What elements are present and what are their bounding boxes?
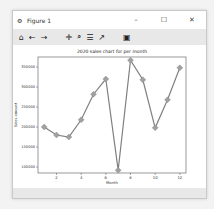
figure-icon: ⚙	[17, 17, 25, 24]
data-point-marker	[128, 57, 134, 63]
data-point-marker	[140, 77, 146, 83]
maximize-button[interactable]: ☐	[150, 16, 178, 24]
data-point-marker	[54, 132, 60, 138]
x-axis-label: Month	[106, 180, 118, 185]
data-point-marker	[165, 97, 171, 103]
back-icon[interactable]: ←	[29, 33, 36, 42]
window-title: Figure 1	[27, 17, 51, 24]
forward-icon[interactable]: →	[41, 33, 48, 42]
y-tick-label: 350000	[21, 65, 35, 69]
data-line	[44, 60, 180, 170]
y-tick-label: 100000	[21, 165, 35, 169]
data-point-marker	[115, 167, 121, 173]
plot-area	[38, 57, 186, 173]
y-tick-label: 150000	[21, 145, 35, 149]
y-axis-label: Sales amount	[14, 102, 18, 127]
close-button[interactable]: ✕	[178, 16, 206, 24]
home-icon[interactable]: ⌂	[19, 33, 24, 42]
title-bar: ⚙ Figure 1 – ☐ ✕	[13, 11, 206, 29]
x-tick-label: 8	[129, 175, 132, 180]
data-point-marker	[177, 65, 183, 71]
figure-canvas[interactable]: 2020 sales chart for per month1000001500…	[13, 45, 206, 185]
x-tick-label: 2	[55, 175, 58, 180]
x-tick-label: 10	[153, 175, 158, 180]
save-icon[interactable]: ▣	[123, 33, 131, 42]
y-tick-label: 250000	[21, 105, 35, 109]
navigation-toolbar: ⌂ ← → ✛ ⌕ ☰ ↗ ▣	[13, 29, 206, 45]
figure-window: ⚙ Figure 1 – ☐ ✕ ⌂ ← → ✛ ⌕ ☰ ↗ ▣ 2020 sa…	[12, 10, 207, 199]
data-point-marker	[152, 125, 158, 131]
configure-subplots-icon[interactable]: ☰	[86, 33, 93, 42]
pan-icon[interactable]: ✛	[65, 33, 72, 42]
zoom-icon[interactable]: ⌕	[77, 32, 81, 42]
line-chart: 2020 sales chart for per month1000001500…	[13, 45, 206, 185]
chart-title: 2020 sales chart for per month	[77, 49, 147, 54]
y-tick-label: 200000	[21, 125, 35, 129]
edit-axes-icon[interactable]: ↗	[98, 33, 105, 42]
minimize-button[interactable]: –	[122, 16, 150, 24]
y-tick-label: 300000	[21, 85, 35, 89]
data-point-marker	[41, 124, 47, 130]
status-bar	[13, 188, 206, 198]
x-tick-label: 12	[177, 175, 182, 180]
x-tick-label: 4	[80, 175, 83, 180]
